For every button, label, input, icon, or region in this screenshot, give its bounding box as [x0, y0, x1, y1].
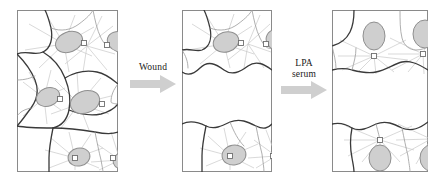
nucleus: [369, 145, 391, 171]
centrosome: [100, 102, 105, 107]
lpa-serum-arrow-label-line-1: LPA: [276, 58, 332, 69]
wound-healing-figure: Wound: [0, 0, 448, 183]
panel-1-canvas: [17, 10, 118, 172]
centrosome: [378, 138, 383, 143]
centrosome: [228, 154, 233, 159]
right-arrow-icon: [130, 75, 176, 93]
centrosome: [73, 156, 78, 161]
centrosome: [82, 41, 87, 46]
right-arrow-icon: [281, 81, 327, 99]
centrosome: [111, 156, 116, 161]
centrosome: [271, 154, 273, 159]
centrosome: [372, 54, 377, 59]
wound-arrow: Wound: [124, 62, 182, 93]
lpa-serum-arrow: LPA serum: [276, 58, 332, 99]
panel-confluent-monolayer: [17, 10, 118, 172]
wound-arrow-label-line-1: Wound: [124, 62, 182, 73]
centrosome: [105, 43, 110, 48]
panel-wounded-monolayer: [182, 10, 272, 172]
centrosome: [58, 97, 63, 102]
panel-polarized-monolayer: [332, 10, 428, 172]
panel-3-canvas: [332, 10, 428, 172]
centrosome: [239, 41, 244, 46]
centrosome: [264, 42, 269, 47]
centrosome: [421, 52, 426, 57]
nucleus: [363, 22, 385, 50]
lpa-serum-arrow-label-line-2: serum: [276, 69, 332, 80]
panel-2-canvas: [182, 10, 272, 172]
